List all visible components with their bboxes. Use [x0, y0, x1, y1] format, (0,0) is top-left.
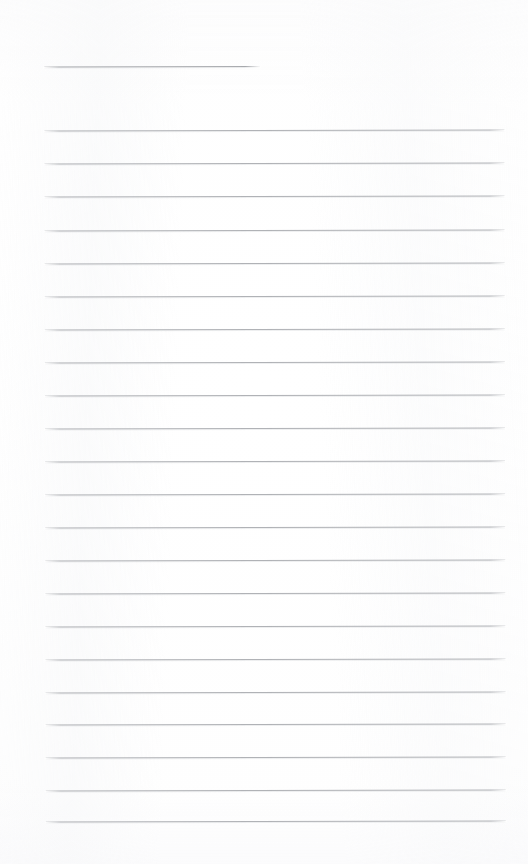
notepad-page [0, 0, 528, 864]
writing-area[interactable] [45, 50, 505, 840]
